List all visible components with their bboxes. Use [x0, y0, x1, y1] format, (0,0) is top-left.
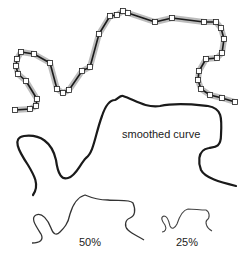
vertex-marker [80, 69, 85, 74]
smoothed-curve [17, 96, 236, 195]
vertex-marker [15, 57, 20, 62]
vertex-marker [88, 65, 93, 70]
vertex-marker [48, 61, 53, 66]
vertex-marker [219, 26, 224, 31]
vertex-marker [32, 52, 37, 57]
vertex-marker [115, 13, 120, 18]
vertex-marker [204, 57, 209, 62]
vertex-marker [55, 87, 60, 92]
vertex-marker [61, 91, 66, 96]
vertex-marker [202, 20, 207, 25]
vertex-marker [153, 20, 158, 25]
vertex-marker [13, 108, 18, 113]
smoothed-curve-label: smoothed curve [122, 128, 200, 140]
fifty-percent-label: 50% [79, 236, 101, 248]
vertex-marker [199, 87, 204, 92]
vertex-marker [67, 88, 72, 93]
vertex-marker [19, 50, 24, 55]
vertex-marker [208, 93, 213, 98]
vertex-marker [197, 69, 202, 74]
vertex-marker [121, 9, 126, 14]
vertex-marker [220, 96, 225, 101]
vertex-marker [170, 16, 175, 21]
vertex-marker [34, 104, 39, 109]
vertex-marker [126, 11, 131, 16]
vertex-marker [35, 97, 40, 102]
vertex-marker [215, 56, 220, 61]
vertex-marker [196, 78, 201, 83]
twenty-five-percent-label: 25% [176, 236, 198, 248]
vertex-marker [24, 79, 29, 84]
vertex-marker [97, 32, 102, 37]
vertex-marker [16, 72, 21, 77]
vertex-marker [222, 37, 227, 42]
curve-25-percent [162, 209, 212, 232]
vertex-marker [214, 20, 219, 25]
vertex-marker [14, 64, 19, 69]
vertex-marker [220, 51, 225, 56]
vertex-marker [108, 14, 113, 19]
vertex-marker [28, 107, 33, 112]
vertex-marker [233, 100, 238, 105]
